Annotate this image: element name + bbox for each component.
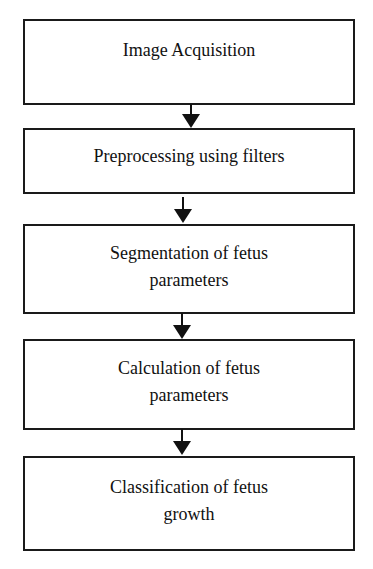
step-label: Segmentation of fetus parameters <box>25 240 353 294</box>
flow-step-segmentation: Segmentation of fetus parameters <box>23 224 355 314</box>
arrow-down-icon <box>181 104 201 129</box>
step-label: Calculation of fetus parameters <box>25 355 353 409</box>
flow-step-classification: Classification of fetus growth <box>23 456 355 551</box>
step-label: Preprocessing using filters <box>25 143 353 170</box>
arrow-down-icon <box>172 429 192 457</box>
step-label: Image Acquisition <box>25 37 353 64</box>
arrow-down-icon <box>172 313 192 340</box>
step-label: Classification of fetus growth <box>25 474 353 528</box>
arrow-down-icon <box>173 197 193 225</box>
flow-step-image-acquisition: Image Acquisition <box>23 19 355 105</box>
flow-step-preprocessing: Preprocessing using filters <box>23 128 355 194</box>
flow-step-calculation: Calculation of fetus parameters <box>23 339 355 430</box>
